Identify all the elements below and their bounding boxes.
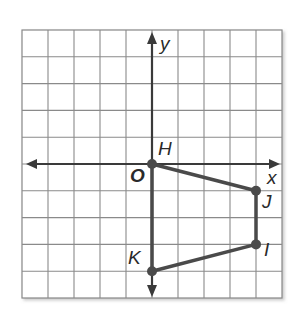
coordinate-plane: y x O H J I K [0,0,295,319]
y-axis-label: y [158,33,171,54]
vertex-label-J: J [261,191,272,212]
x-axis-label: x [266,167,278,188]
vertex-label-K: K [128,247,142,268]
vertex-label-H: H [158,138,172,159]
vertex-point-K [147,266,157,276]
vertex-point-J [251,186,261,196]
origin-label: O [130,165,145,186]
vertex-point-H [147,159,157,169]
vertex-point-I [251,239,261,249]
vertex-label-I: I [264,239,270,260]
